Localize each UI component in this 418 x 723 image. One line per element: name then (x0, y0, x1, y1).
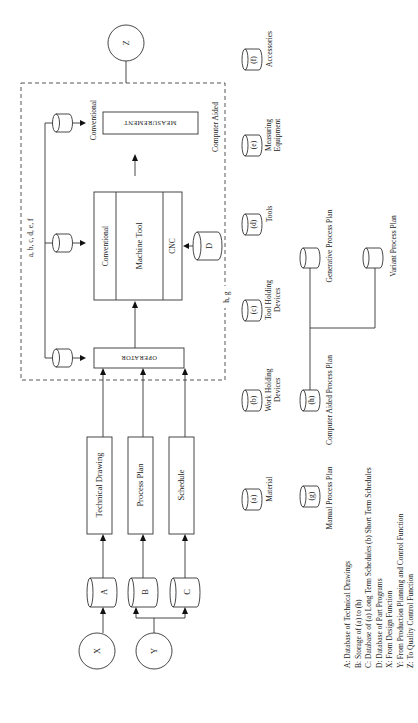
manufacturing-information-flow-diagram: Z a, b, c, d, e, f Conventional MEASUREM… (0, 0, 418, 723)
resource-e-label: Measuring (264, 119, 273, 151)
variant-plan-label: Variant Process Plan (389, 215, 398, 277)
operator-label: OPERATOR (121, 355, 157, 362)
db-to-doc-arrows (100, 534, 188, 578)
legend-item: C: Database of (a) Long Term Schedules (… (364, 467, 373, 668)
legend-item: D: Database of Part Programs (375, 578, 384, 668)
resource-f-label: Accessories (265, 31, 274, 67)
plan-g-label: Manual Process Plan (325, 466, 334, 529)
measurement-label: MEASUREMENT (124, 120, 177, 127)
bus-cylinder-icon (53, 349, 73, 367)
arrow-d-to-cnc (183, 243, 189, 249)
resource-e-label-2: Equipment (273, 118, 282, 152)
legend-item: Y: From Production Planning and Control … (396, 513, 405, 668)
node-d-label: D (204, 243, 214, 249)
resource-c-key: (c) (249, 305, 258, 314)
resource-a-key: (a) (249, 494, 258, 503)
plan-tree-connectors (310, 268, 375, 390)
resource-c-label: Tool Holding (264, 280, 273, 320)
technical-drawing-label: Technical Drawing (94, 452, 104, 518)
plan-h-label: Computer Aided Process Plan (325, 355, 334, 445)
resource-b-key: (b) (249, 395, 258, 404)
source-arrows (100, 607, 188, 633)
measurement-computer-aided-label: Computer Aided (211, 102, 220, 152)
cnc-label: CNC (168, 238, 177, 253)
legend-item: A: Database of Technical Drawings (343, 561, 352, 668)
resource-e-key: (e) (249, 140, 258, 149)
legend-item: B: Storage of (a) to (h) (354, 599, 363, 668)
resource-b-label-2: Devices (273, 378, 282, 402)
resources-bus (45, 123, 53, 358)
generative-plan-label: Generative Process Plan (325, 209, 334, 282)
resource-a-label: Material (265, 476, 274, 501)
resource-d-key: (d) (249, 219, 258, 228)
node-y-label: Y (149, 648, 159, 654)
variant-plan-icon (363, 248, 383, 268)
schedule-label: Schedule (176, 469, 186, 500)
node-b-label: B (140, 589, 150, 595)
node-a-label: A (99, 588, 109, 595)
plan-label: h, g (222, 291, 231, 303)
node-x-label: X (92, 648, 102, 654)
plan-g-key: (g) (307, 491, 316, 500)
bus-arrows (73, 120, 86, 361)
node-z-label: Z (121, 40, 131, 45)
plan-h-key: (h) (307, 395, 316, 404)
bus-cylinder-icon (53, 234, 73, 252)
generative-plan-icon (300, 248, 320, 268)
legend: A: Database of Technical Drawings B: Sto… (343, 467, 415, 668)
resource-c-label-2: Devices (273, 288, 282, 312)
machine-tool-conventional-label: Conventional (101, 226, 110, 266)
measurement-conventional-label: Conventional (89, 100, 98, 140)
node-z: Z (108, 25, 144, 61)
resource-d-label: Tools (265, 206, 274, 223)
legend-item: X: From Design Function (385, 590, 394, 668)
input-arrows (100, 368, 188, 437)
legend-item: Z: To Quality Control Function (406, 574, 415, 668)
resources-label: a, b, c, d, e, f (26, 218, 35, 257)
node-c-label: C (182, 589, 192, 595)
bus-cylinder-icon (53, 114, 73, 132)
process-plan-label: Process Plan (135, 463, 145, 507)
resource-f-key: (f) (249, 56, 258, 64)
resource-b-label: Work Holding (264, 368, 273, 411)
machine-tool-label: Machine Tool (134, 222, 144, 270)
